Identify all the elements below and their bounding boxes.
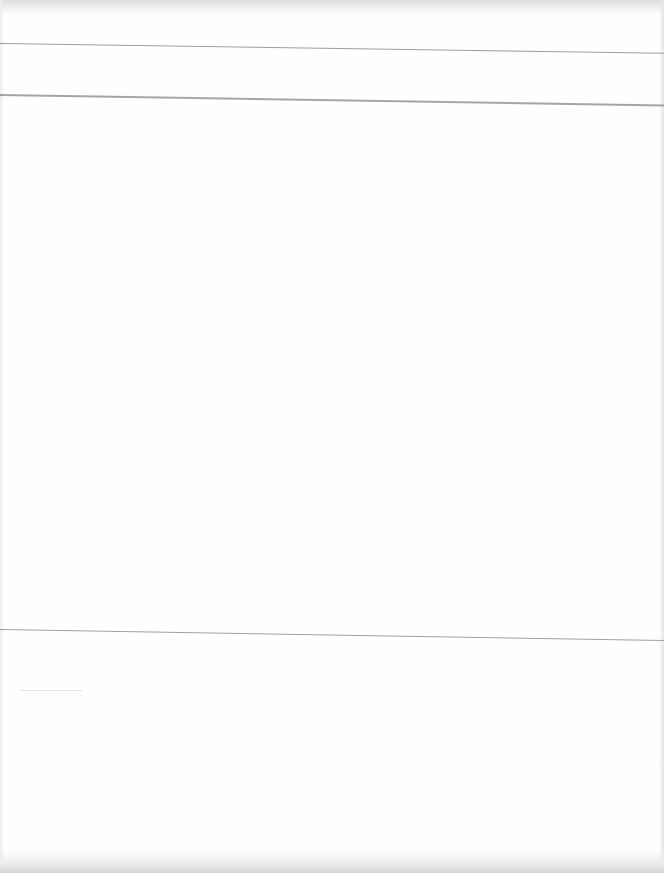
ruled-line-upper [0, 94, 664, 106]
faint-scan-mark [20, 690, 82, 691]
scanned-page [0, 0, 664, 873]
scan-edge-left [0, 0, 4, 873]
scan-edge-right [659, 0, 664, 873]
ruled-line-lower [0, 629, 664, 641]
scan-edge-top [0, 0, 664, 14]
ruled-line-top [0, 43, 664, 54]
scan-edge-bottom [0, 851, 664, 873]
